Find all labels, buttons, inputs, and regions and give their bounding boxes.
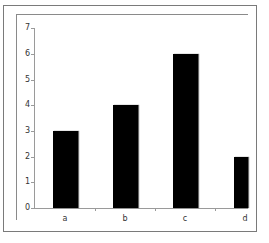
y-tick-label: 1 bbox=[22, 178, 30, 186]
y-tick bbox=[31, 28, 34, 29]
y-tick bbox=[31, 105, 34, 106]
bar-a bbox=[53, 131, 78, 208]
y-axis bbox=[34, 28, 35, 208]
y-tick-label: 4 bbox=[22, 101, 30, 109]
x-tick bbox=[155, 208, 156, 211]
bar-b bbox=[113, 105, 138, 208]
y-tick-label: 5 bbox=[22, 76, 30, 84]
plot-frame-left bbox=[16, 14, 17, 220]
y-tick-label: 3 bbox=[22, 127, 30, 135]
y-tick bbox=[31, 208, 34, 209]
plot-frame-top bbox=[16, 14, 248, 15]
x-tick-label: d bbox=[235, 215, 255, 223]
x-tick-label: c bbox=[175, 215, 195, 223]
y-tick-label: 6 bbox=[22, 50, 30, 58]
bar-d bbox=[234, 157, 248, 208]
y-tick bbox=[31, 54, 34, 55]
x-tick bbox=[95, 208, 96, 211]
x-tick-label: a bbox=[55, 215, 75, 223]
y-tick bbox=[31, 182, 34, 183]
x-tick-label: b bbox=[115, 215, 135, 223]
y-tick-label: 2 bbox=[22, 153, 30, 161]
y-tick-label: 0 bbox=[22, 204, 30, 212]
y-tick bbox=[31, 131, 34, 132]
x-tick bbox=[215, 208, 216, 211]
bar-c bbox=[173, 54, 198, 208]
y-tick bbox=[31, 157, 34, 158]
y-tick-label: 7 bbox=[22, 24, 30, 32]
y-tick bbox=[31, 80, 34, 81]
